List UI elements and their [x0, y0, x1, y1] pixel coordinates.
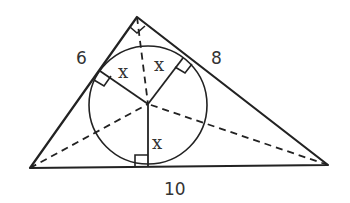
right-angle-apex [130, 26, 145, 33]
label-left-side: 6 [76, 50, 87, 67]
label-right-side: 8 [211, 50, 222, 67]
label-radius-right: x [154, 56, 164, 74]
diagram: 6 8 10 x x x [0, 0, 350, 203]
triangle [30, 17, 328, 168]
label-base: 10 [164, 181, 186, 198]
label-radius-left: x [118, 63, 128, 81]
triangle-figure [0, 0, 350, 203]
bisector-right [148, 104, 328, 165]
label-radius-bottom: x [152, 134, 162, 152]
bisector-top [137, 17, 148, 104]
